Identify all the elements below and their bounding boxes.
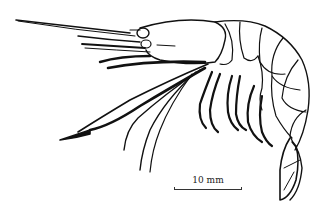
legs [60,62,272,172]
scale-bar [174,187,242,190]
shrimp-illustration [0,0,323,214]
eye [130,28,151,48]
carapace [140,20,226,64]
scale-bar-label: 10 mm [185,175,231,185]
tail-fan [280,138,302,200]
rostrum [16,20,150,62]
